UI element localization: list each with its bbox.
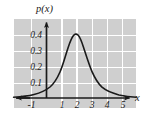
y-tick-label-0.1: 0.1 — [16, 79, 42, 89]
x-tick-label-4: 4 — [99, 101, 115, 111]
x-tick-label-1: 1 — [54, 101, 70, 111]
x-axis-label: x — [135, 93, 140, 104]
probability-density-figure: p(x) x 0.4 0.3 0.2 0.1 -1 1 2 3 4 5 — [0, 0, 146, 118]
x-tick-label-5: 5 — [115, 101, 131, 111]
x-tick-label-3: 3 — [84, 101, 100, 111]
y-axis-label: p(x) — [36, 4, 53, 15]
y-tick-label-0.4: 0.4 — [16, 31, 42, 41]
y-tick-label-0.2: 0.2 — [16, 63, 42, 73]
y-tick-label-0.3: 0.3 — [16, 47, 42, 57]
x-tick-label-2: 2 — [69, 101, 85, 111]
x-tick-label--1: -1 — [23, 101, 40, 111]
